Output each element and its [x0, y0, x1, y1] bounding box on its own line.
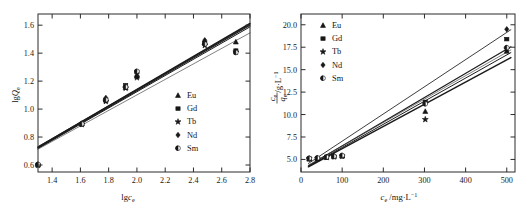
x-tick-label: 100	[336, 176, 348, 185]
axis-frame	[38, 14, 250, 172]
x-tick-label: 2.4	[188, 176, 198, 185]
data-point-sm	[340, 153, 345, 158]
legend-right: EuGdTbNdSm	[320, 21, 344, 83]
legend-marker-tb	[175, 119, 181, 125]
data-point-sm	[307, 156, 312, 161]
legend-marker-sm	[176, 146, 181, 151]
data-point-sm	[103, 97, 108, 102]
y-tick-label: 15.0	[283, 66, 297, 75]
fit-line-tb	[38, 27, 250, 149]
y-tick-label: 5.0	[287, 155, 297, 164]
series-sm	[36, 42, 239, 167]
x-tick-label: 0	[299, 176, 303, 185]
legend-left: EuGdTbNdSm	[175, 91, 199, 153]
y-tick-label: 10.0	[283, 111, 297, 120]
legend-marker-nd	[321, 62, 325, 68]
data-point-sm	[332, 154, 337, 159]
legend-marker-eu	[321, 23, 326, 28]
x-tick-label: 200	[377, 176, 389, 185]
series-eu	[36, 39, 239, 166]
legend-label-tb: Tb	[332, 47, 341, 56]
legend-marker-gd	[321, 37, 325, 41]
y-tick-label: 1.6	[24, 21, 34, 30]
x-tick-label: 500	[501, 176, 513, 185]
legend-label-eu: Eu	[332, 21, 342, 30]
legend-marker-nd	[176, 132, 180, 138]
legend-label-gd: Gd	[187, 104, 198, 113]
y-tick-label: 1.4	[24, 49, 34, 58]
data-point-sm	[324, 155, 329, 160]
legend-marker-gd	[176, 107, 180, 111]
legend-label-eu: Eu	[187, 91, 197, 100]
data-point-sm	[79, 122, 84, 127]
legend-label-nd: Nd	[187, 131, 198, 140]
chart-panel-right: 0100200300400500 5.07.510.012.515.017.52…	[263, 0, 527, 211]
x-tick-label: 2.6	[217, 176, 227, 185]
y-tick-label: 1.2	[24, 77, 34, 86]
x-tick-label: 2.8	[245, 176, 255, 185]
series-tb	[35, 42, 239, 167]
fit-line-sm	[38, 33, 250, 149]
fit-line-gd	[38, 25, 250, 148]
series-gd	[36, 41, 238, 167]
data-point-sm	[135, 69, 140, 74]
y-tick-label: 1.0	[24, 105, 34, 114]
x-tick-label: 400	[459, 176, 471, 185]
data-point-eu	[423, 109, 428, 114]
data-points-group	[35, 38, 239, 168]
legend-label-sm: Sm	[187, 144, 199, 153]
x-tick-label: 300	[418, 176, 430, 185]
langmuir-plot-svg: 0100200300400500 5.07.510.012.515.017.52…	[263, 0, 527, 211]
chart-panel-left: 1.41.61.82.02.22.42.62.8 0.60.81.01.21.4…	[0, 0, 264, 211]
data-point-gd	[505, 37, 509, 41]
legend-label-tb: Tb	[187, 117, 196, 126]
y-axis-ticks: 5.07.510.012.515.017.520.0	[283, 21, 515, 165]
y-tick-label: 7.5	[287, 133, 297, 142]
data-point-sm	[233, 50, 238, 55]
y-tick-label: 20.0	[283, 21, 297, 30]
x-tick-label: 2.2	[160, 176, 170, 185]
x-tick-label: 2.0	[132, 176, 142, 185]
x-tick-label: 1.6	[75, 176, 85, 185]
x-axis-title-right: ce /mg·L−1	[381, 191, 418, 203]
data-point-sm	[315, 156, 320, 161]
y-tick-label: 17.5	[283, 43, 297, 52]
fit-line-nd	[38, 24, 250, 146]
data-point-sm	[423, 101, 428, 106]
fit-lines-group	[38, 24, 250, 150]
legend-marker-eu	[176, 93, 181, 98]
legend-marker-sm	[321, 76, 326, 81]
legend-label-nd: Nd	[332, 61, 343, 70]
series-nd	[36, 38, 238, 168]
figure-container: 1.41.61.82.02.22.42.62.8 0.60.81.01.21.4…	[0, 0, 527, 211]
y-axis-title-left: lgQe	[10, 87, 21, 103]
y-axis-title-right-denominator: qe	[277, 94, 288, 101]
y-tick-label: 0.6	[24, 161, 34, 170]
data-point-sm	[123, 85, 128, 90]
data-point-sm	[202, 42, 207, 47]
legend-label-sm: Sm	[332, 74, 344, 83]
x-tick-label: 1.8	[104, 176, 114, 185]
y-tick-label: 0.8	[24, 133, 34, 142]
x-axis-title-left: lgce	[121, 192, 135, 203]
freundlich-plot-svg: 1.41.61.82.02.22.42.62.8 0.60.81.01.21.4…	[0, 0, 264, 211]
data-point-sm	[504, 45, 509, 50]
legend-label-gd: Gd	[332, 34, 343, 43]
legend-marker-tb	[320, 49, 326, 55]
y-axis-title-right-unit: /g·L−1	[272, 71, 283, 92]
x-tick-label: 1.4	[47, 176, 57, 185]
data-point-tb	[422, 116, 428, 122]
fit-line-tb	[308, 53, 510, 167]
